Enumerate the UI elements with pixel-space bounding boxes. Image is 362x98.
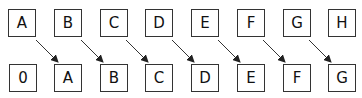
arrow-icon — [218, 40, 240, 62]
arrow-icon — [172, 40, 194, 62]
arrow-icon — [36, 40, 58, 62]
arrows-layer — [0, 0, 362, 98]
arrow-icon — [309, 40, 331, 62]
arrow-icon — [263, 40, 285, 62]
arrow-icon — [81, 40, 103, 62]
arrow-icon — [126, 40, 148, 62]
